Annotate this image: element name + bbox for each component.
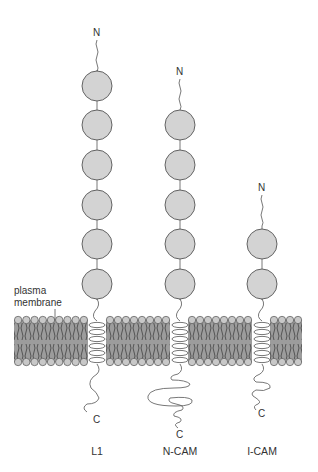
cytoplasmic-tail bbox=[84, 364, 99, 412]
ig-domain bbox=[247, 229, 277, 259]
ig-domain bbox=[165, 150, 195, 180]
transmembrane-helix bbox=[172, 322, 188, 362]
transmembrane-helix bbox=[89, 322, 105, 362]
membrane-label-line2: membrane bbox=[14, 297, 62, 308]
ig-domain bbox=[82, 269, 112, 299]
ig-domain bbox=[82, 110, 112, 140]
n-terminus-label: N bbox=[176, 66, 183, 77]
membrane-label-line1: plasma bbox=[14, 285, 47, 296]
ig-domain bbox=[165, 269, 195, 299]
ig-domain bbox=[165, 190, 195, 220]
ig-domain bbox=[82, 190, 112, 220]
protein-name-i-cam: I-CAM bbox=[247, 445, 277, 457]
cell-adhesion-molecules-diagram: plasma membrane N C L1 N bbox=[0, 0, 318, 472]
ig-domain bbox=[82, 150, 112, 180]
cytoplasmic-tail bbox=[252, 364, 270, 410]
ig-domain bbox=[165, 110, 195, 140]
c-terminus-label: C bbox=[93, 414, 100, 425]
protein-l1: N C L1 bbox=[82, 27, 112, 457]
transmembrane-helix bbox=[254, 322, 270, 362]
plasma-membrane bbox=[14, 316, 302, 365]
protein-name-n-cam: N-CAM bbox=[163, 445, 197, 457]
protein-name-l1: L1 bbox=[91, 445, 103, 457]
n-terminus-label: N bbox=[93, 27, 100, 38]
c-terminus-label: C bbox=[258, 408, 265, 419]
n-terminus-label: N bbox=[258, 182, 265, 193]
protein-n-cam: N C N-CAM bbox=[148, 66, 197, 457]
ig-domain bbox=[247, 269, 277, 299]
cytoplasmic-tail bbox=[148, 364, 192, 428]
ig-domain bbox=[165, 229, 195, 259]
c-terminus-label: C bbox=[176, 429, 183, 440]
ig-domain bbox=[82, 229, 112, 259]
ig-domain bbox=[82, 71, 112, 101]
